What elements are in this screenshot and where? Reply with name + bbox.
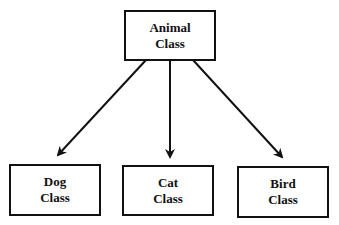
animal-class-line1: Animal xyxy=(149,20,190,36)
cat-class-line1: Cat xyxy=(158,175,178,191)
arrow-animal-to-bird xyxy=(193,60,282,157)
bird-class-line2: Class xyxy=(268,192,298,208)
bird-class-line1: Bird xyxy=(270,176,295,192)
animal-class-box: Animal Class xyxy=(124,10,216,61)
dog-class-line1: Dog xyxy=(44,174,66,190)
cat-class-box: Cat Class xyxy=(122,165,214,216)
arrow-animal-to-dog xyxy=(58,60,146,155)
bird-class-box: Bird Class xyxy=(237,166,329,218)
animal-class-line2: Class xyxy=(155,36,185,52)
dog-class-box: Dog Class xyxy=(9,164,101,216)
dog-class-line2: Class xyxy=(40,190,70,206)
cat-class-line2: Class xyxy=(153,191,183,207)
